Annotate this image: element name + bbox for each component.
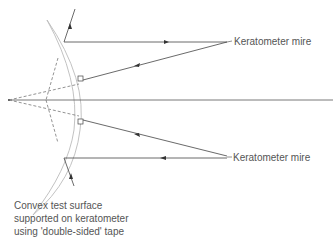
caption-line-1: Convex test surface [14, 199, 129, 212]
caption-line-2: supported on keratometer [14, 212, 129, 225]
keratometer-mire-label-top: Keratometer mire [234, 35, 311, 48]
caption-line-3: using 'double-sided' tape [14, 225, 129, 238]
keratometer-mire-label-bottom: Keratometer mire [233, 151, 310, 164]
caption: Convex test surface supported on keratom… [14, 199, 129, 238]
right-angle-marker-bottom [78, 119, 83, 124]
right-angle-marker-top [78, 76, 83, 81]
